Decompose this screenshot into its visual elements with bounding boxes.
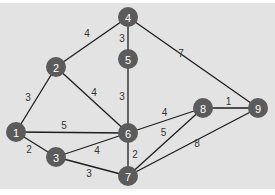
edge-weight-4-9: 7 [178,48,184,59]
edge-weight-4-5: 3 [119,33,125,44]
graph-diagram: 352443374324158 123456789 [0,0,275,195]
node-label: 5 [125,54,131,66]
node-7: 7 [118,166,138,186]
node-9: 9 [248,98,268,118]
edge-weight-1-6: 5 [61,120,67,131]
edge-weight-6-8: 4 [162,107,168,118]
node-8: 8 [193,98,213,118]
node-label: 4 [125,12,131,24]
edge-weight-5-6: 3 [119,91,125,102]
node-label: 3 [53,152,59,164]
edge-weight-3-7: 3 [86,168,92,179]
edge-weight-2-6: 4 [91,87,97,98]
node-5: 5 [118,49,138,69]
node-label: 1 [13,127,19,139]
edge-weight-7-8: 5 [161,127,167,138]
node-1: 1 [6,122,26,142]
diagram-background [0,3,275,189]
node-6: 6 [118,123,138,143]
edge-weight-7-9: 8 [194,138,200,149]
node-label: 2 [53,62,59,74]
edge-weight-3-6: 4 [94,145,100,156]
node-4: 4 [118,7,138,27]
edge-weight-6-7: 2 [132,149,138,160]
edge-weight-8-9: 1 [226,96,232,107]
node-label: 6 [125,128,131,140]
edge-weight-1-2: 3 [25,92,31,103]
edge-weight-2-4: 4 [84,28,90,39]
node-label: 9 [255,103,261,115]
node-label: 7 [125,171,131,183]
node-label: 8 [200,103,206,115]
edge-weight-1-3: 2 [26,144,32,155]
node-3: 3 [46,147,66,167]
node-2: 2 [46,57,66,77]
